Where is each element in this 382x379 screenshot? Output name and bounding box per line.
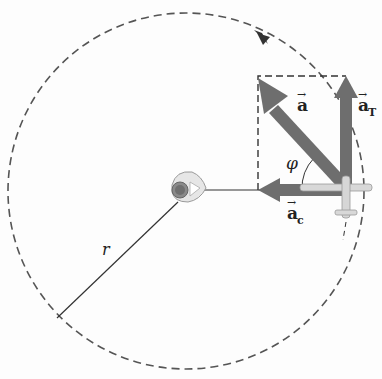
diagram-canvas: a → a T → a c → φ r bbox=[0, 0, 382, 379]
svg-text:T: T bbox=[368, 106, 377, 119]
pilot-icon bbox=[172, 172, 206, 202]
circular-motion-diagram: a → a T → a c → φ r bbox=[0, 0, 382, 379]
label-phi: φ bbox=[286, 153, 298, 173]
label-a-c: a c → bbox=[287, 196, 304, 227]
label-r: r bbox=[102, 240, 111, 259]
label-a-T: a T → bbox=[358, 88, 377, 119]
path-direction-arrow-icon-head bbox=[257, 33, 270, 45]
label-a: a → bbox=[297, 88, 308, 115]
svg-text:→: → bbox=[287, 196, 296, 209]
radius-line bbox=[57, 202, 178, 318]
svg-text:→: → bbox=[358, 88, 367, 101]
svg-text:→: → bbox=[297, 88, 306, 101]
airplane-icon bbox=[300, 176, 372, 240]
svg-text:c: c bbox=[297, 214, 304, 227]
